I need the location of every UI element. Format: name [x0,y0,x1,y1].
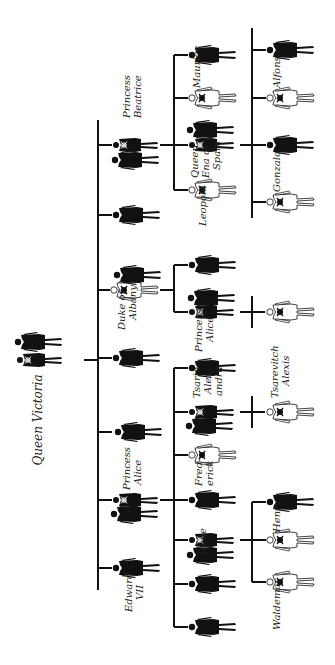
queen-victoria-couple [15,332,62,367]
unaffected-female-icon [189,617,236,637]
alfonso-hemophiliac-icon [267,87,314,109]
spouse-icon [187,120,234,140]
label-gonzalo: Gonzalo [271,151,282,192]
pedigree-diagram: Queen Victoria Princess Beatrice [0,0,335,665]
unaffected-male-icon [189,255,236,275]
label-duke-of-albany: Duke of Albany [116,285,138,331]
hemophiliac-male-icon [267,301,314,323]
label-queen-victoria: Queen Victoria [31,374,45,465]
unaffected-male-icon [189,490,236,510]
label-maurice: Maurice [191,46,202,89]
leopold-hemophiliac-icon [189,179,236,201]
spouse-male-icon [15,332,62,352]
label-princess-beatrice: Princess Beatrice [121,72,143,119]
tsarevitch-alexis-icon [267,401,314,423]
princess-beatrice-icon [113,138,158,152]
tsarina-alexandra-icon [189,405,234,419]
spouse-icon [112,150,159,170]
label-irene: Irene [197,528,208,556]
label-princess-alice: Princess Alice [121,444,143,491]
unaffected-male-icon [113,348,160,368]
unaffected-male-icon [113,205,160,225]
spouse-icon [187,545,234,565]
gonzalo-hemophiliac-icon [267,191,314,213]
maurice-hemophiliac-icon [189,87,236,109]
label-leopold: Leopold [197,185,208,227]
label-alfonso: Alfonso [271,50,282,89]
unaffected-female-icon [189,574,236,594]
spouse-icon [188,288,235,308]
princess-alice-icon [113,493,158,507]
gen2-children [98,138,162,578]
gen3-albany-children [174,255,236,319]
carrier-female-icon [17,353,62,367]
label-edward-vii: Edward VII [123,569,145,613]
gen3-alice-children [174,358,236,637]
unaffected-female-icon [115,422,162,442]
spouse-icon [186,416,233,436]
spouse-icon [114,265,161,285]
label-queen-ena: Queen Ena of Spain [189,141,222,179]
label-henry: Henry [271,500,282,533]
edward-vii-icon [113,558,160,578]
label-waldemar: Waldemar [271,578,282,630]
spouse-icon [111,504,158,524]
gen4-irene-children [252,492,314,593]
gen4-ena-children [252,40,314,213]
label-tsarevitch-alexis: Tsarevitch Alexis [269,342,291,398]
irene-icon [189,533,234,547]
